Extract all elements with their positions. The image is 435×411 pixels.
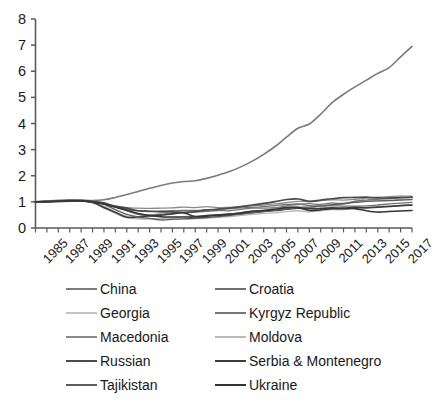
legend-item-label: Moldova xyxy=(249,330,302,344)
series-group xyxy=(36,46,413,220)
legend-item[interactable]: Russian xyxy=(66,350,151,372)
legend-item[interactable]: Kyrgyz Republic xyxy=(215,302,350,324)
legend-item-label: Russian xyxy=(100,354,151,368)
legend-item-label: Serbia & Montenegro xyxy=(249,354,381,368)
legend-swatch-line-icon xyxy=(215,360,246,362)
y-axis-tick-label: 6 xyxy=(4,64,26,79)
legend-item-label: Tajikistan xyxy=(100,378,158,392)
legend-item[interactable]: Georgia xyxy=(66,302,150,324)
legend-item-label: China xyxy=(100,282,137,296)
line-chart-svg xyxy=(0,0,425,262)
y-axis-tick-label: 7 xyxy=(4,38,26,53)
legend-swatch-line-icon xyxy=(66,360,97,362)
y-axis-tick-label: 2 xyxy=(4,169,26,184)
y-axis-tick-label: 0 xyxy=(4,221,26,236)
y-axis-tick-label: 1 xyxy=(4,195,26,210)
legend-swatch-line-icon xyxy=(66,312,97,314)
legend-item-label: Kyrgyz Republic xyxy=(249,306,350,320)
series-line-china xyxy=(36,46,413,201)
legend-item-label: Macedonia xyxy=(100,330,169,344)
legend-swatch-line-icon xyxy=(66,336,97,338)
legend-item[interactable]: Tajikistan xyxy=(66,374,158,396)
legend-item[interactable]: Ukraine xyxy=(215,374,297,396)
legend-item-label: Georgia xyxy=(100,306,150,320)
chart-legend: ChinaCroatiaGeorgiaKyrgyz RepublicMacedo… xyxy=(0,272,425,411)
legend-swatch-line-icon xyxy=(215,384,246,386)
legend-item[interactable]: Macedonia xyxy=(66,326,169,348)
legend-swatch-line-icon xyxy=(215,288,246,290)
legend-item-label: Ukraine xyxy=(249,378,297,392)
legend-item[interactable]: Serbia & Montenegro xyxy=(215,350,381,372)
legend-item[interactable]: Croatia xyxy=(215,278,294,300)
legend-swatch-line-icon xyxy=(66,384,97,386)
legend-item-label: Croatia xyxy=(249,282,294,296)
y-axis-tick-label: 4 xyxy=(4,117,26,132)
legend-swatch-line-icon xyxy=(215,336,246,338)
legend-item[interactable]: Moldova xyxy=(215,326,302,348)
plot-area: 012345678 198519871989199119931995199719… xyxy=(0,0,425,262)
legend-item[interactable]: China xyxy=(66,278,137,300)
legend-swatch-line-icon xyxy=(215,312,246,314)
y-axis-tick-label: 3 xyxy=(4,143,26,158)
y-axis-tick-label: 8 xyxy=(4,12,26,27)
y-axis-tick-label: 5 xyxy=(4,90,26,105)
legend-swatch-line-icon xyxy=(66,288,97,290)
